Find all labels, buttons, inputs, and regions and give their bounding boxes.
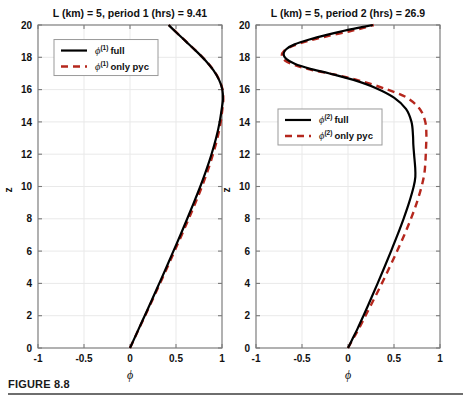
y-tick-label: 14 [239,117,251,128]
legend-label: full [110,45,124,56]
x-axis-title: ϕ [127,368,133,382]
legend: ϕ(2)fullϕ(2)only pyc [278,109,382,145]
x-tick-label: 0.5 [169,353,183,364]
legend-label: full [334,114,348,125]
y-tick-label: 20 [239,20,251,31]
y-tick-label: 0 [26,343,32,354]
y-tick-label: 4 [244,278,250,289]
y-tick-label: 16 [21,84,33,95]
legend-superscript: (1) [100,60,108,68]
legend-entry: ϕ(2)full [319,113,349,125]
legend-entry: ϕ(1)full [95,44,125,56]
y-tick-label: 8 [244,213,250,224]
x-tick-label: -0.5 [293,353,311,364]
legend: ϕ(1)fullϕ(1)only pyc [54,40,158,76]
panel-title: L (km) = 5, period 2 (hrs) = 26.9 [271,7,426,19]
y-tick-label: 2 [26,310,32,321]
y-axis-title: z [3,188,14,193]
x-tick-label: 1 [219,353,225,364]
y-tick-label: 6 [26,246,32,257]
figure-plot-area: L (km) = 5, period 1 (hrs) = 9.41-1-0.50… [0,0,471,400]
x-tick-label: -0.5 [75,353,93,364]
legend-superscript: (1) [100,44,108,52]
y-tick-label: 4 [26,278,32,289]
y-tick-label: 2 [244,310,250,321]
y-tick-label: 12 [239,149,251,160]
y-tick-label: 8 [26,213,32,224]
figure-caption-label: FIGURE 8.8 [8,378,70,390]
y-tick-label: 10 [21,181,33,192]
legend-superscript: (2) [324,113,332,121]
x-tick-label: 0.5 [387,353,401,364]
y-tick-label: 10 [239,181,251,192]
x-tick-label: 0 [127,353,133,364]
y-tick-label: 18 [239,52,251,63]
y-tick-label: 12 [21,149,33,160]
x-tick-label: -1 [34,353,43,364]
x-axis-title: ϕ [345,368,351,382]
x-tick-label: -1 [252,353,261,364]
y-tick-label: 20 [21,20,33,31]
figure-container: L (km) = 5, period 1 (hrs) = 9.41-1-0.50… [0,0,471,400]
panel-title: L (km) = 5, period 1 (hrs) = 9.41 [53,7,208,19]
y-tick-label: 18 [21,52,33,63]
x-tick-label: 0 [345,353,351,364]
figure-caption-rule [8,393,463,395]
gridlines [256,25,440,348]
x-tick-label: 1 [437,353,443,364]
chart-panel-left: L (km) = 5, period 1 (hrs) = 9.41-1-0.50… [3,7,225,382]
y-tick-label: 16 [239,84,251,95]
y-tick-label: 6 [244,246,250,257]
chart-panel-right: L (km) = 5, period 2 (hrs) = 26.9-1-0.50… [221,7,443,382]
legend-label: only pyc [110,61,149,72]
y-axis-title: z [221,188,232,193]
y-tick-label: 0 [244,343,250,354]
legend-label: only pyc [334,130,373,141]
y-tick-label: 14 [21,117,33,128]
legend-superscript: (2) [324,129,332,137]
